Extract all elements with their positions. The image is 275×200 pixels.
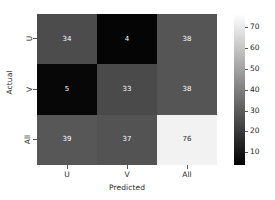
x-tick-v: V [107, 170, 147, 179]
colorbar-tick-label: 30 [250, 107, 260, 115]
heatmap-cell: 5 [37, 64, 97, 114]
colorbar-tick-mark [245, 131, 248, 132]
colorbar-tick-mark [245, 111, 248, 112]
cell-value: 33 [122, 86, 131, 93]
heatmap-cell: 38 [157, 14, 217, 64]
colorbar [234, 14, 245, 165]
heatmap-cell: 4 [97, 14, 157, 64]
colorbar-tick-mark [245, 152, 248, 153]
x-tick-mark-all [187, 165, 188, 169]
x-axis-label: Predicted [37, 183, 217, 192]
confusion-matrix-figure: Actual U V All 34 4 38 5 33 38 39 [0, 0, 275, 200]
heatmap-cell: 39 [37, 115, 97, 165]
cell-value: 37 [122, 136, 131, 143]
heatmap-cell: 33 [97, 64, 157, 114]
heatmap-cell: 38 [157, 64, 217, 114]
colorbar-tick-mark [245, 90, 248, 91]
y-tick-all-text: All [23, 134, 32, 143]
y-tick-u: U [16, 33, 32, 43]
cell-value: 38 [182, 86, 191, 93]
cell-value: 76 [182, 136, 191, 143]
colorbar-tick-label: 20 [250, 127, 260, 135]
colorbar-tick-mark [245, 69, 248, 70]
x-tick-mark-v [127, 165, 128, 169]
colorbar-gradient [234, 14, 245, 165]
cell-value: 38 [182, 36, 191, 43]
heatmap-cell: 37 [97, 115, 157, 165]
cell-value: 4 [125, 36, 130, 43]
colorbar-tick-label: 60 [250, 44, 260, 52]
x-tick-mark-u [67, 165, 68, 169]
heatmap-axes: 34 4 38 5 33 38 39 37 76 [37, 14, 217, 165]
colorbar-tick-mark [245, 48, 248, 49]
y-tick-v: V [16, 84, 32, 94]
y-axis-label: Actual [2, 0, 16, 165]
x-tick-u: U [47, 170, 87, 179]
heatmap-cell: 34 [37, 14, 97, 64]
cell-value: 34 [62, 36, 71, 43]
colorbar-tick-mark [245, 27, 248, 28]
heatmap-cell: 76 [157, 115, 217, 165]
colorbar-tick-label: 10 [250, 148, 260, 156]
cell-value: 39 [62, 136, 71, 143]
y-axis-label-text: Actual [5, 70, 14, 94]
cell-value: 5 [65, 86, 70, 93]
colorbar-tick-label: 70 [250, 23, 260, 31]
x-tick-all: All [167, 170, 207, 179]
y-tick-all: All [16, 134, 32, 144]
colorbar-tick-label: 40 [250, 86, 260, 94]
colorbar-tick-label: 50 [250, 65, 260, 73]
